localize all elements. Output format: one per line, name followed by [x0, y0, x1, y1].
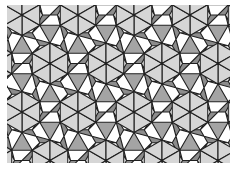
hexagon-center-dot — [49, 62, 52, 65]
hexagon-center-dot — [49, 159, 52, 162]
hexagon-center-dot — [77, 14, 80, 17]
tiling-pattern — [0, 0, 233, 170]
hexagon-center-dot — [189, 111, 192, 114]
hexagon-center-dot — [77, 111, 80, 114]
hexagon-center-dot — [21, 111, 24, 114]
hexagon-center-dot — [217, 62, 220, 65]
hexagon-center-dot — [133, 111, 136, 114]
hexagon-center-dot — [189, 14, 192, 17]
hexagon-center-dot — [161, 159, 164, 162]
hexagon-center-dot — [21, 14, 24, 17]
hexagon-center-dot — [133, 14, 136, 17]
hexagon-center-dot — [105, 159, 108, 162]
hexagon-center-dot — [161, 62, 164, 65]
hexagon-center-dot — [105, 62, 108, 65]
hexagon-center-dot — [217, 159, 220, 162]
tiling-canvas — [0, 0, 233, 170]
